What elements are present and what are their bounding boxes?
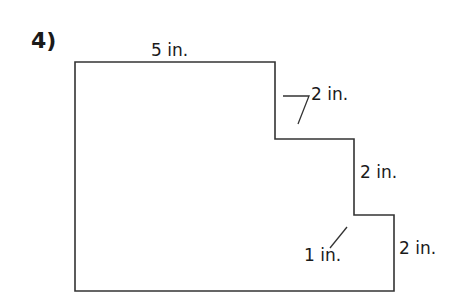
label-right-bottom-side: 2 in. — [399, 240, 436, 257]
upper-step-leader-line — [283, 96, 309, 124]
label-right-middle-side: 2 in. — [360, 164, 397, 181]
label-lower-step: 1 in. — [304, 247, 341, 264]
label-upper-step: 2 in. — [311, 86, 348, 103]
label-top-side: 5 in. — [151, 42, 188, 59]
composite-shape-figure — [0, 0, 464, 299]
